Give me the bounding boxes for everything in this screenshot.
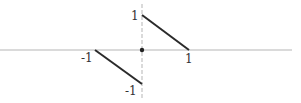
plot-svg: 1 1 -1 -1 [0,0,301,103]
y-tick-label-neg: -1 [125,84,137,98]
segment-right [142,15,189,50]
origin-point [140,48,144,52]
y-tick-label-pos: 1 [131,9,139,23]
chart-figure: 1 1 -1 -1 [0,0,301,103]
x-tick-label-neg: -1 [81,51,93,65]
x-tick-label-pos: 1 [185,52,193,66]
segment-left [95,50,142,84]
